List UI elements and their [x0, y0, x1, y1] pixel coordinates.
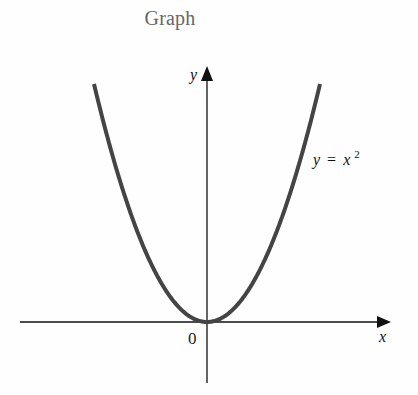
y-axis-arrow-icon [201, 66, 213, 81]
y-axis-label: y [188, 66, 198, 84]
plot-area: y x 0 y = x 2 [0, 0, 418, 395]
curve-label-lhs: y [311, 151, 321, 169]
figure: Graph y x 0 y = x 2 [0, 0, 418, 395]
curve-label-base: x [342, 151, 350, 168]
curve-label-exponent: 2 [354, 148, 360, 160]
x-axis-label: x [378, 328, 386, 345]
x-axis-arrow-icon [377, 316, 391, 328]
origin-label: 0 [188, 329, 197, 348]
curve-equation-label: y = x 2 [311, 148, 360, 169]
curve-label-equals: = [327, 151, 336, 168]
